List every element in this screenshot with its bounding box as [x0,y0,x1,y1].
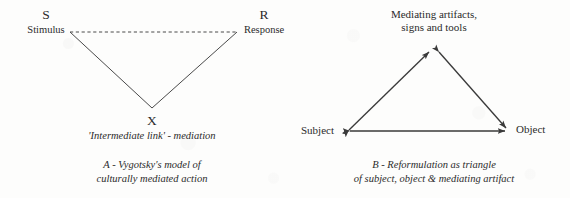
intermediate-link-note: 'Intermediate link' - mediation [88,130,215,142]
response-label: Response [244,24,284,36]
stimulus-letter: S [42,7,50,23]
mediating-artifacts-label: Mediating artifacts, signs and tools [391,8,477,34]
subject-label: Subject [301,124,334,137]
panel-a-caption-line1: A - Vygotsky's model of [97,158,208,172]
mediating-artifacts-line2: signs and tools [391,21,477,34]
panel-b-caption-line1: B - Reformulation as triangle [354,158,514,172]
panel-a-shape [70,32,237,108]
artifact-object-arrow [439,52,506,128]
panel-b-caption-line2: of subject, object & mediating artifact [354,172,514,186]
mediating-artifacts-line1: Mediating artifacts, [391,8,477,21]
mediation-v-path [70,32,237,108]
object-label: Object [516,123,545,136]
panel-b-caption: B - Reformulation as triangle of subject… [354,158,514,185]
panel-a-caption-line2: culturally mediated action [97,172,208,186]
intermediate-link-letter: X [147,113,157,129]
panel-b-shape [349,52,506,131]
figure-canvas: S Stimulus R Response X 'Intermediate li… [0,0,570,198]
subject-artifact-arrow [349,52,429,130]
panel-a-caption: A - Vygotsky's model of culturally media… [97,158,208,185]
stimulus-label: Stimulus [27,24,64,36]
response-letter: R [259,7,268,23]
